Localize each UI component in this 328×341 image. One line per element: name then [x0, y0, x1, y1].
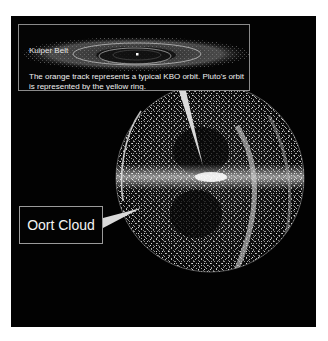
sun-dot	[136, 53, 139, 56]
kuiper-belt-label: Kuiper Belt	[29, 46, 68, 55]
oort-cloud-callout: Oort Cloud	[19, 206, 103, 244]
inset-caption: The orange track represents a typical KB…	[29, 72, 244, 91]
oort-cloud-label: Oort Cloud	[27, 217, 95, 233]
diagram-panel: Kuiper Belt The orange track represents …	[11, 16, 316, 327]
kuiper-belt-inset: Kuiper Belt The orange track represents …	[18, 24, 250, 91]
